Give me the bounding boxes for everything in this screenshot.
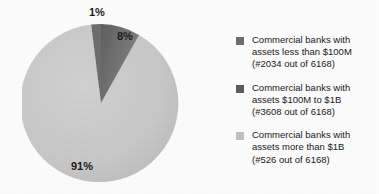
pie-label-91-percent: 91%: [71, 160, 93, 172]
legend-item-assets-100m-to-1b: Commercial banks with assets $100M to $1…: [236, 82, 376, 119]
legend-label-line2: assets less than $100M: [252, 46, 376, 58]
pie-label-8-percent: 8%: [117, 30, 133, 42]
legend-label-line3: (#2034 out of 6168): [252, 58, 376, 70]
legend-swatch-icon: [236, 132, 244, 140]
legend-label-line3: (#526 out of 6168): [252, 154, 376, 166]
pie-svg: [22, 24, 180, 182]
legend-swatch-icon: [236, 85, 244, 93]
legend-label-line1: Commercial banks with: [252, 34, 376, 46]
pie-label-1-percent: 1%: [89, 6, 105, 18]
legend-item-assets-over-1b: Commercial banks with assets more than $…: [236, 129, 376, 166]
pie-chart-graphic: [22, 24, 180, 182]
legend-label-line3: (#3608 out of 6168): [252, 106, 376, 118]
legend-label-line1: Commercial banks with: [252, 82, 376, 94]
legend-label-line2: assets $100M to $1B: [252, 94, 376, 106]
chart-legend: Commercial banks with assets less than $…: [236, 34, 376, 177]
legend-label-line1: Commercial banks with: [252, 129, 376, 141]
legend-swatch-icon: [236, 37, 244, 45]
pie-chart-figure: 1% 8% 91% Commercial banks with assets l…: [0, 0, 379, 194]
legend-label-line2: assets more than $1B: [252, 141, 376, 153]
legend-item-assets-under-100m: Commercial banks with assets less than $…: [236, 34, 376, 71]
